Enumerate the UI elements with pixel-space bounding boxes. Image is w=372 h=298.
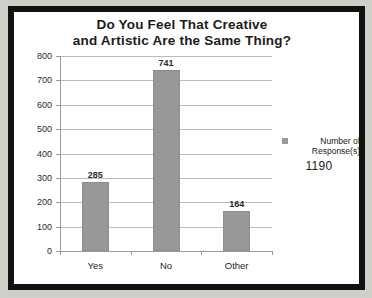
x-axis-tick <box>131 251 132 255</box>
y-axis-tick <box>56 56 61 57</box>
y-axis-tick-label: 100 <box>18 222 52 232</box>
y-axis-tick <box>56 178 61 179</box>
legend-entry: Number of Response(s) <box>282 136 359 156</box>
y-axis-tick-label: 700 <box>18 75 52 85</box>
legend-swatch-icon <box>282 138 288 144</box>
chart-frame: Do You Feel That Creative and Artistic A… <box>8 6 365 290</box>
chart-canvas: Do You Feel That Creative and Artistic A… <box>14 12 359 284</box>
chart-legend: Number of Response(s) 1190 <box>282 136 359 173</box>
chart-title-line-2: and Artistic Are the Same Thing? <box>22 33 342 49</box>
gridline <box>60 56 272 57</box>
y-axis-tick-label: 600 <box>18 100 52 110</box>
legend-label-line-2: Response(s) <box>312 146 359 156</box>
x-axis-category-label: Yes <box>88 260 104 271</box>
chart-title-line-1: Do You Feel That Creative <box>22 17 342 33</box>
x-axis-category-label: Other <box>225 260 249 271</box>
plot-area: 8007006005004003002001000 285741164 YesN… <box>60 56 272 251</box>
x-axis-tick <box>60 251 61 255</box>
y-axis-tick-label: 300 <box>18 173 52 183</box>
y-axis-tick <box>56 80 61 81</box>
y-axis-tick-label: 800 <box>18 51 52 61</box>
gridline <box>60 251 272 252</box>
x-axis-category-label: No <box>160 260 172 271</box>
y-axis-tick-label: 200 <box>18 197 52 207</box>
bar-value-label: 164 <box>229 199 244 209</box>
legend-label: Number of Response(s) <box>291 136 359 156</box>
bar-value-label: 741 <box>158 58 173 68</box>
y-axis-tick <box>56 129 61 130</box>
x-axis-tick <box>201 251 202 255</box>
y-axis-tick <box>56 105 61 106</box>
bar-other <box>223 211 250 251</box>
photo-border: Do You Feel That Creative and Artistic A… <box>0 0 372 298</box>
bar-no <box>153 70 180 251</box>
y-axis-tick-label: 400 <box>18 149 52 159</box>
y-axis-tick-label: 0 <box>18 246 52 256</box>
bar-value-label: 285 <box>88 170 103 180</box>
bar-yes <box>82 182 109 251</box>
chart-title: Do You Feel That Creative and Artistic A… <box>22 17 342 48</box>
y-axis-tick <box>56 154 61 155</box>
y-axis-tick <box>56 227 61 228</box>
legend-label-line-1: Number of <box>320 136 359 146</box>
y-axis-tick <box>56 202 61 203</box>
x-axis-tick <box>272 251 273 255</box>
legend-total-value: 1190 <box>282 159 359 173</box>
y-axis-tick-label: 500 <box>18 124 52 134</box>
